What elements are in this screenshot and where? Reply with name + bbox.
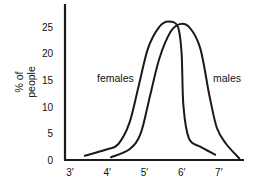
- y-tick-label: 25: [42, 22, 54, 33]
- y-axis-label: % of people: [13, 66, 37, 98]
- y-tick-label: 0: [47, 155, 53, 166]
- y-tick-label: 10: [42, 102, 54, 113]
- x-tick-label: 5′: [141, 167, 149, 178]
- series-lines: [85, 21, 239, 158]
- males-label: males: [213, 72, 241, 84]
- y-axis: 0510152025: [42, 4, 65, 166]
- y-tick-label: 15: [42, 75, 54, 86]
- height-distribution-chart: 0510152025 3′4′5′6′7′ % of people female…: [0, 0, 262, 191]
- females-curve: [85, 21, 215, 155]
- y-axis-label-line2: people: [25, 66, 37, 98]
- y-tick-label: 20: [42, 48, 54, 59]
- y-tick-label: 5: [47, 128, 53, 139]
- x-tick-label: 3′: [66, 167, 74, 178]
- males-curve: [111, 24, 239, 159]
- x-tick-label: 6′: [178, 167, 186, 178]
- x-tick-label: 4′: [103, 167, 111, 178]
- x-tick-label: 7′: [215, 167, 223, 178]
- females-label: females: [97, 72, 134, 84]
- y-axis-label-line1: % of: [13, 71, 25, 92]
- x-axis: 3′4′5′6′7′: [64, 160, 244, 178]
